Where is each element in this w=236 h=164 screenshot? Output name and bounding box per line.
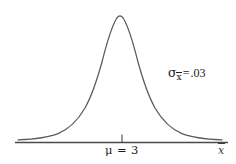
sigma-symbol: σ: [168, 67, 177, 80]
mean-label: μ = 3: [105, 145, 139, 157]
normal-distribution-figure: σx=.03 μ = 3 x: [0, 0, 236, 164]
sigma-equals-sign: =: [183, 67, 190, 79]
distribution-plot-svg: [0, 0, 236, 164]
sigma-subscript-xbar: x: [177, 73, 182, 82]
standard-error-value: .03: [190, 67, 205, 79]
standard-error-annotation: σx=.03: [168, 67, 205, 80]
x-axis-label: x: [218, 145, 224, 156]
x-axis-label-text: x: [218, 145, 224, 156]
